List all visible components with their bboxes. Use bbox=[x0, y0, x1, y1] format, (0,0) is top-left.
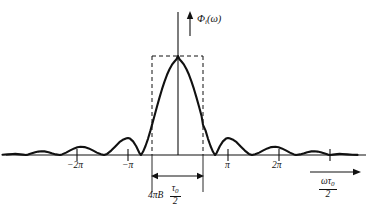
width-double-arrow bbox=[151, 173, 204, 179]
x-axis-fraction-numerator: ωτ0 bbox=[319, 177, 337, 188]
plot-canvas bbox=[0, 0, 372, 216]
x-tick-label-minus-2pi: −2π bbox=[67, 161, 83, 171]
x-tick-label-minus-pi: −π bbox=[122, 161, 133, 171]
spectrum-curve bbox=[3, 56, 358, 155]
width-label-fraction: τ0 2 bbox=[170, 184, 181, 207]
x-axis-label: ωτ0 2 bbox=[319, 177, 337, 200]
main-lobe-width-annotation: 4πB τ0 2 bbox=[148, 184, 181, 207]
x-axis-fraction-numerator-subscript: 0 bbox=[331, 180, 335, 188]
width-fraction-numerator: τ0 bbox=[170, 184, 181, 195]
width-fraction-denominator: 2 bbox=[170, 197, 181, 207]
width-label-main: 4πB bbox=[148, 190, 163, 200]
y-axis-label-arg: (ω) bbox=[207, 13, 221, 24]
x-tick-label-pi: π bbox=[225, 161, 230, 171]
y-axis-arrow bbox=[187, 11, 193, 36]
width-fraction-numerator-subscript: 0 bbox=[175, 187, 179, 195]
x-axis-fraction-denominator: 2 bbox=[319, 190, 337, 200]
x-axis-label-fraction: ωτ0 2 bbox=[319, 177, 337, 200]
x-tick-label-2pi: 2π bbox=[272, 161, 282, 171]
x-axis-direction-arrow bbox=[310, 169, 361, 175]
y-axis-label-phi: Φ bbox=[197, 13, 205, 24]
spectrum-figure: Φi(ω) −2π −π π 2π 4πB τ0 2 ωτ0 2 bbox=[0, 0, 372, 216]
y-axis-label: Φi(ω) bbox=[197, 14, 221, 26]
